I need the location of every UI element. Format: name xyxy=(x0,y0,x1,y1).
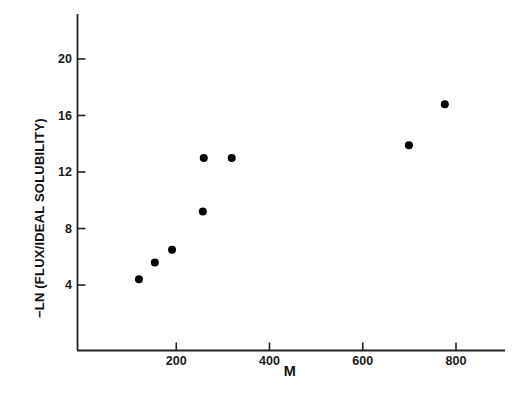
data-point xyxy=(199,208,207,216)
x-tick-label: 200 xyxy=(166,354,187,368)
plot-area xyxy=(0,0,521,398)
data-points xyxy=(135,100,449,283)
x-axis-title: M xyxy=(284,363,296,379)
data-point xyxy=(441,100,449,108)
x-tick-label: 400 xyxy=(259,354,280,368)
data-point xyxy=(168,246,176,254)
data-point xyxy=(200,154,208,162)
scatter-chart: 48121620200400600800 M −LN (FLUX/IDEAL S… xyxy=(0,0,521,398)
data-point xyxy=(405,141,413,149)
y-axis-ticks xyxy=(78,59,86,285)
axes xyxy=(77,14,505,351)
data-point xyxy=(228,154,236,162)
x-tick-label: 600 xyxy=(352,354,373,368)
y-axis-title: −LN (FLUX/IDEAL SOLUBILITY) xyxy=(28,0,52,318)
data-point xyxy=(151,258,159,266)
data-point xyxy=(135,275,143,283)
x-axis-ticks xyxy=(176,343,456,351)
x-tick-label: 800 xyxy=(445,354,466,368)
